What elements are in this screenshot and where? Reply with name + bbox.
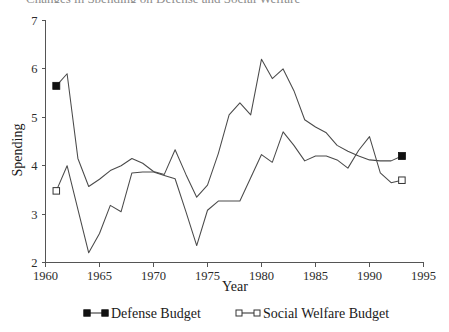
y-tick-label: 3 — [31, 208, 37, 222]
legend-marker-social-welfare-0 — [236, 310, 242, 316]
legend-label-social-welfare[interactable]: Social Welfare Budget — [263, 306, 389, 321]
x-axis-title: Year — [222, 279, 248, 294]
y-tick-label: 4 — [31, 159, 38, 173]
x-tick-label: 1965 — [87, 269, 112, 283]
line-chart: 234567 19601965197019751980198519901995 … — [0, 0, 449, 332]
series-line-defense — [56, 59, 402, 197]
x-tick-label: 1960 — [33, 269, 58, 283]
x-tick-label: 1975 — [195, 269, 220, 283]
x-tick-label: 1970 — [141, 269, 166, 283]
endpoint-marker-social-welfare — [53, 188, 60, 195]
endpoint-marker-defense — [53, 82, 60, 89]
x-tick-label: 1985 — [303, 269, 328, 283]
legend-marker-defense-0 — [84, 310, 91, 317]
x-tick-label: 1980 — [249, 269, 274, 283]
y-tick-label: 5 — [31, 111, 37, 125]
y-tick-label: 7 — [31, 14, 37, 28]
x-tick-label: 1990 — [357, 269, 382, 283]
endpoint-marker-social-welfare — [399, 177, 406, 184]
figure-title-fragment: Changes in Spending on Defense and Socia… — [0, 0, 449, 3]
endpoint-marker-defense — [398, 153, 405, 160]
chart-legend: Defense BudgetSocial Welfare Budget — [84, 306, 389, 321]
y-tick-label: 6 — [31, 62, 37, 76]
endpoint-markers-group — [53, 82, 406, 194]
series-line-social-welfare — [56, 132, 402, 253]
legend-label-defense[interactable]: Defense Budget — [111, 306, 201, 321]
legend-marker-social-welfare-1 — [254, 310, 260, 316]
chart-figure: Changes in Spending on Defense and Socia… — [0, 0, 449, 332]
data-series-group — [56, 59, 402, 253]
legend-marker-defense-1 — [102, 310, 109, 317]
y-axis-title: Spending — [10, 124, 25, 177]
y-axis-ticks: 234567 — [31, 14, 45, 270]
x-tick-label: 1995 — [411, 269, 436, 283]
